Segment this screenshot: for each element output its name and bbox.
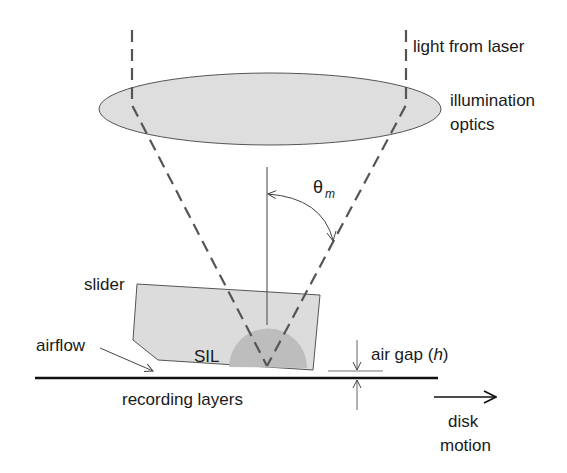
- label-optics: optics: [450, 115, 494, 134]
- air-gap-variable: h: [433, 345, 442, 364]
- label-theta-subscript: m: [325, 187, 335, 201]
- theta-angle-arc: [268, 194, 333, 240]
- label-sil: SIL: [194, 347, 220, 366]
- label-light-from-laser: light from laser: [413, 37, 525, 56]
- label-recording-layers: recording layers: [122, 390, 243, 409]
- label-airflow: airflow: [36, 336, 86, 355]
- illumination-optics-lens: [99, 73, 441, 145]
- label-motion: motion: [440, 436, 491, 455]
- label-theta: θ: [313, 177, 323, 197]
- label-disk: disk: [448, 412, 479, 431]
- air-gap-prefix: air gap (: [371, 345, 434, 364]
- sil-diagram: light from laser illumination optics θ m…: [0, 0, 567, 473]
- label-illumination: illumination: [450, 91, 535, 110]
- label-slider: slider: [84, 275, 125, 294]
- air-gap-suffix: ): [443, 345, 449, 364]
- label-air-gap: air gap (h): [371, 345, 449, 364]
- airflow-arrow: [100, 348, 153, 371]
